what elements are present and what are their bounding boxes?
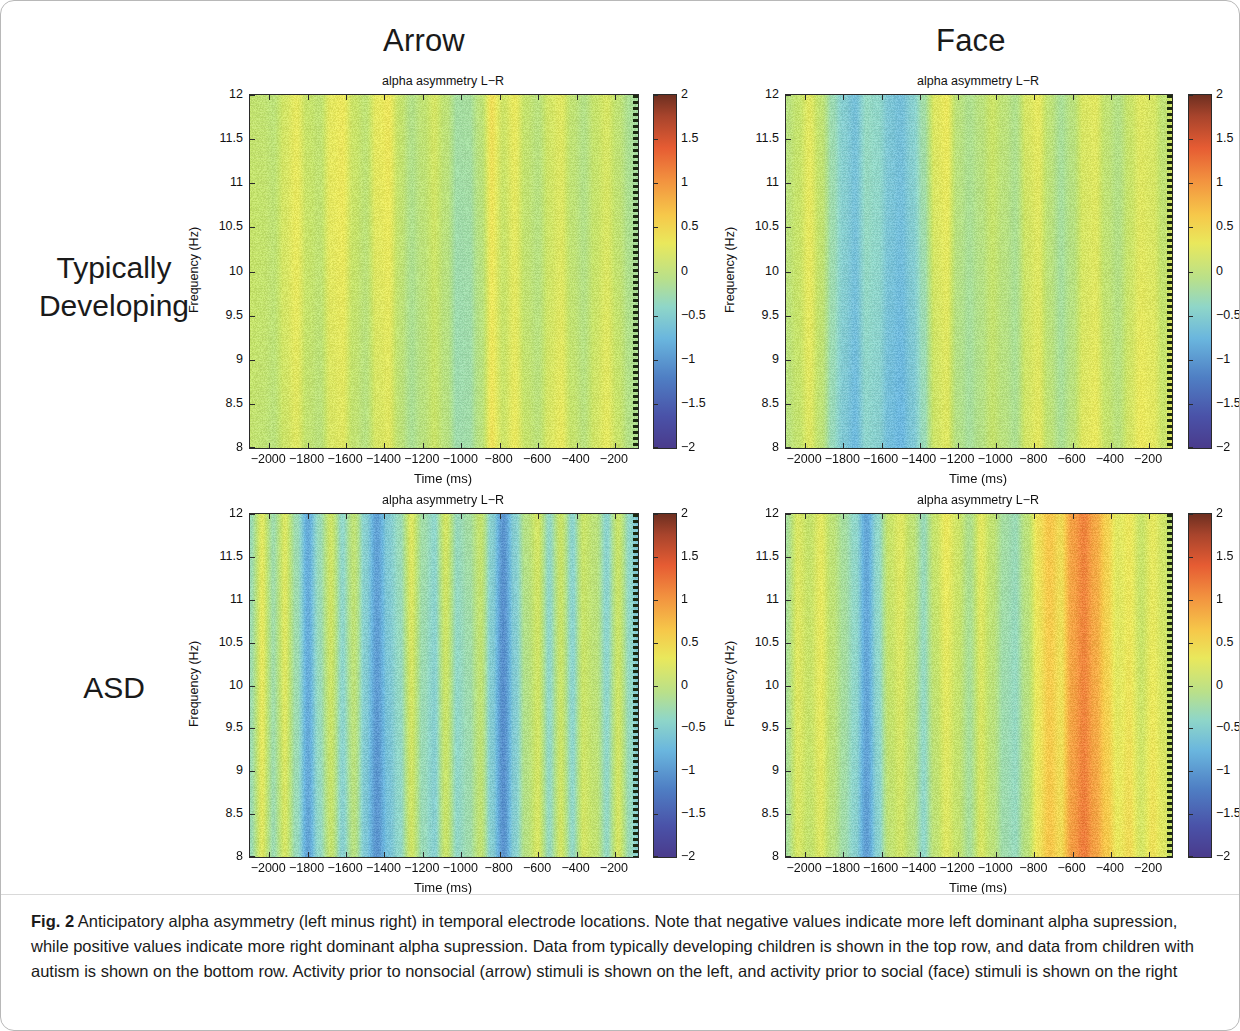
x-tick-label: −600: [523, 861, 551, 875]
y-axis-title: Frequency (Hz): [722, 512, 736, 855]
y-tick: [786, 728, 791, 729]
colorbar-tick-label: 0.5: [1216, 219, 1233, 233]
x-tick-bottom: [461, 443, 462, 448]
y-tick-label: 10.5: [741, 635, 779, 649]
x-tick-bottom: [308, 443, 309, 448]
x-tick-label: −1400: [366, 452, 401, 466]
y-tick: [250, 728, 255, 729]
x-tick-bottom: [805, 443, 806, 448]
y-tick: [786, 183, 791, 184]
colorbar-tick-label: 0: [681, 264, 688, 278]
colorbar-tick: [654, 447, 658, 448]
x-tick-bottom: [308, 852, 309, 857]
x-tick-bottom: [996, 852, 997, 857]
x-tick-bottom: [843, 443, 844, 448]
colorbar-tick: [654, 404, 658, 405]
x-tick-label: −800: [485, 452, 513, 466]
x-tick-label: −800: [485, 861, 513, 875]
colorbar-tick: [1189, 272, 1193, 273]
x-tick-bottom: [538, 852, 539, 857]
x-tick-top: [805, 514, 806, 519]
colorbar-tick-label: 1.5: [681, 131, 698, 145]
x-tick-label: −2000: [787, 861, 822, 875]
y-axis-title: Frequency (Hz): [186, 512, 200, 855]
colorbar-tick-label: 0.5: [681, 635, 698, 649]
colorbar-tick-label: 0: [1216, 678, 1223, 692]
x-tick-label: −1600: [863, 861, 898, 875]
colorbar-tick: [654, 856, 658, 857]
x-tick-top: [1111, 95, 1112, 100]
y-tick: [786, 514, 791, 515]
x-tick-bottom: [996, 443, 997, 448]
y-tick: [786, 686, 791, 687]
column-header-arrow: Arrow: [383, 23, 465, 59]
y-tick-label: 11.5: [205, 131, 243, 145]
y-tick-label: 10.5: [205, 219, 243, 233]
colorbar-tick: [1189, 139, 1193, 140]
y-tick: [250, 514, 255, 515]
x-tick-label: −2000: [251, 861, 286, 875]
colorbar-tick-label: −1: [681, 763, 695, 777]
x-tick-top: [1149, 514, 1150, 519]
y-tick-label: 10: [741, 678, 779, 692]
x-tick-bottom: [423, 852, 424, 857]
x-axis-title: Time (ms): [249, 471, 637, 486]
colorbar-tick-label: −1.5: [681, 806, 706, 820]
y-tick-label: 9.5: [741, 720, 779, 734]
heatmap-panel-typically-developing-arrow: alpha asymmetry L−R−2000−1800−1600−1400−…: [249, 94, 637, 447]
colorbar-tick-label: 1: [681, 592, 688, 606]
x-tick-bottom: [384, 443, 385, 448]
x-axis-title: Time (ms): [249, 880, 637, 895]
y-axis-title: Frequency (Hz): [186, 93, 200, 446]
colorbar-tick-label: 2: [1216, 506, 1223, 520]
x-tick-label: −600: [1058, 452, 1086, 466]
x-tick-top: [843, 514, 844, 519]
x-tick-label: −1200: [404, 861, 439, 875]
x-tick-top: [615, 514, 616, 519]
x-tick-bottom: [1034, 443, 1035, 448]
x-tick-label: −400: [561, 452, 589, 466]
y-tick: [250, 404, 255, 405]
y-tick-label: 10: [205, 678, 243, 692]
colorbar-tick: [1189, 771, 1193, 772]
x-tick-top: [958, 514, 959, 519]
colorbar-tick-label: 2: [681, 506, 688, 520]
x-tick-top: [1073, 514, 1074, 519]
y-tick: [786, 404, 791, 405]
x-tick-label: −200: [600, 452, 628, 466]
y-tick: [786, 557, 791, 558]
colorbar-tick-label: −2: [681, 849, 695, 863]
figure-container: Arrow Face Typically Developing ASD alph…: [0, 0, 1240, 1031]
x-tick-bottom: [1073, 443, 1074, 448]
y-tick-label: 8: [741, 440, 779, 454]
x-tick-label: −800: [1019, 861, 1047, 875]
x-tick-top: [615, 95, 616, 100]
panel-title: alpha asymmetry L−R: [249, 493, 637, 507]
y-tick-label: 11: [205, 592, 243, 606]
colorbar-tick-label: 1.5: [1216, 549, 1233, 563]
y-tick: [250, 227, 255, 228]
colorbar: [653, 94, 677, 449]
colorbar-tick-label: 2: [1216, 87, 1223, 101]
colorbar-tick-label: −1: [1216, 763, 1230, 777]
x-tick-top: [958, 95, 959, 100]
x-tick-bottom: [384, 852, 385, 857]
y-tick: [786, 643, 791, 644]
x-tick-bottom: [615, 852, 616, 857]
x-tick-bottom: [1111, 443, 1112, 448]
x-tick-bottom: [805, 852, 806, 857]
y-tick: [250, 643, 255, 644]
colorbar-tick-label: 1: [681, 175, 688, 189]
x-tick-bottom: [920, 852, 921, 857]
y-tick-label: 8.5: [741, 396, 779, 410]
y-tick-label: 11.5: [741, 131, 779, 145]
colorbar-tick: [1189, 686, 1193, 687]
x-tick-bottom: [500, 443, 501, 448]
colorbar-tick: [654, 771, 658, 772]
colorbar-tick-label: −0.5: [681, 720, 706, 734]
y-tick-label: 10.5: [205, 635, 243, 649]
colorbar-tick: [654, 686, 658, 687]
x-tick-bottom: [461, 852, 462, 857]
x-tick-label: −1400: [901, 861, 936, 875]
y-tick: [250, 771, 255, 772]
